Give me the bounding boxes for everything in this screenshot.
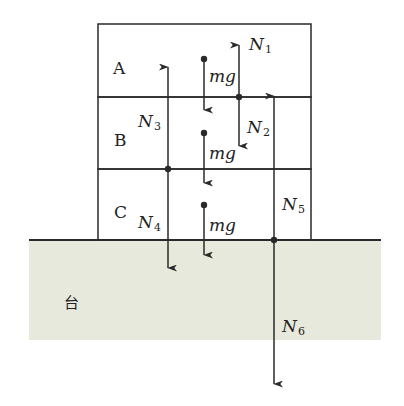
- n6-symbol: N: [282, 316, 297, 336]
- n1-label: N1: [249, 36, 272, 55]
- gravity-arrow-a: [201, 56, 207, 110]
- n4-label: N4: [138, 214, 161, 233]
- n5-label: N5: [282, 196, 305, 215]
- n3-label: N3: [138, 113, 161, 132]
- mg-label-b: mg: [209, 145, 236, 162]
- block-b-label: B: [114, 132, 127, 149]
- n2-label: N2: [247, 119, 270, 138]
- gravity-arrow-b: [201, 130, 207, 183]
- diagram-graphics: [0, 0, 404, 406]
- n6-label: N6: [282, 318, 305, 337]
- n5-symbol: N: [282, 194, 297, 214]
- force-arrow-n1: [236, 45, 242, 100]
- n1-subscript: 1: [265, 43, 272, 56]
- block-c-label: C: [114, 204, 127, 221]
- mg-label-c: mg: [209, 217, 236, 234]
- n6-subscript: 6: [298, 325, 305, 338]
- n4-subscript: 4: [154, 221, 161, 234]
- mg-label-a: mg: [209, 68, 236, 85]
- n2-subscript: 2: [263, 126, 270, 139]
- n3-subscript: 3: [154, 120, 161, 133]
- n1-symbol: N: [249, 34, 264, 54]
- table-ground: [29, 240, 381, 340]
- table-label: 台: [64, 296, 79, 311]
- force-arrow-n3: [165, 67, 171, 172]
- n5-subscript: 5: [298, 203, 305, 216]
- block-a-label: A: [113, 60, 125, 77]
- n2-symbol: N: [247, 117, 262, 137]
- n3-symbol: N: [138, 111, 153, 131]
- force-diagram: A B C mg mg mg N1 N2 N3 N4 N5 N6 台: [0, 0, 404, 406]
- n4-symbol: N: [138, 212, 153, 232]
